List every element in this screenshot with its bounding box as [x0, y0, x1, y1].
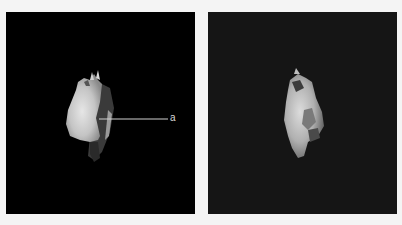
image-panel-left: a: [6, 12, 195, 214]
image-panel-right: [208, 12, 397, 214]
bone-fragment-render-left: [6, 12, 195, 214]
bone-fragment-render-right: [208, 12, 397, 214]
annotation-label-a: a: [170, 113, 176, 123]
